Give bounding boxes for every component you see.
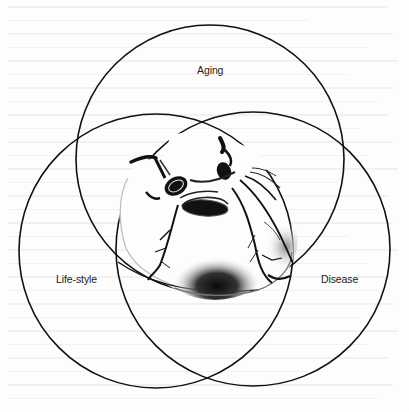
figure-canvas: Aging Life-style Disease xyxy=(0,0,409,412)
label-aging: Aging xyxy=(197,64,223,76)
venn-diagram xyxy=(0,0,409,412)
heart-illustration xyxy=(118,130,298,300)
label-lifestyle: Life-style xyxy=(56,273,97,285)
label-disease: Disease xyxy=(321,273,358,285)
